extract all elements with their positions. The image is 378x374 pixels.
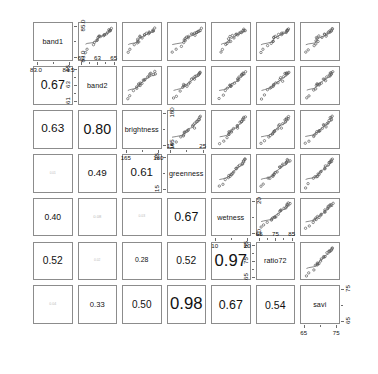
axis-tick: [74, 93, 76, 94]
axis-tick-label: 25: [152, 153, 159, 160]
variable-label: ratio72: [264, 256, 287, 265]
correlation-panel-wetness-brightness: 0.03: [122, 198, 162, 237]
data-point: [259, 51, 261, 53]
scatter-canvas: [212, 111, 250, 148]
axis-tick: [74, 26, 77, 27]
scatter-panel-band1-vs-wetness: [211, 22, 251, 61]
data-point: [218, 142, 220, 144]
data-point: [262, 183, 264, 185]
axis-tick: [74, 101, 77, 102]
axis-tick-label: 85: [241, 241, 248, 248]
axis-tick-label: 165: [121, 154, 131, 161]
diagonal-panel-ratio72: ratio72: [256, 242, 296, 281]
data-point: [129, 48, 131, 50]
data-point: [132, 89, 134, 91]
data-point: [259, 142, 261, 144]
correlation-value: 0.08: [93, 215, 101, 219]
scatter-panel-wetness-vs-savi: [300, 198, 340, 237]
scatterplot-matrix: band10.67band20.630.80brightness0.010.49…: [0, 0, 378, 374]
axis-tick: [163, 129, 165, 130]
data-point: [178, 90, 180, 92]
data-point: [308, 224, 310, 226]
loess-smooth-line: [261, 74, 288, 90]
correlation-panel-savi-band1: 0.04: [33, 285, 73, 324]
data-point: [304, 142, 306, 144]
correlation-value: 0.52: [176, 256, 196, 266]
loess-smooth-line: [306, 31, 333, 45]
correlation-value: 0.04: [49, 303, 56, 307]
axis-tick: [74, 41, 76, 42]
data-point: [263, 94, 265, 96]
scatter-panel-greenness-vs-wetness: [211, 154, 251, 193]
correlation-panel-savi-greenness: 0.98: [167, 285, 207, 324]
axis-tick-label: 180: [167, 108, 174, 118]
scatter-canvas: [301, 155, 339, 192]
data-point: [308, 271, 310, 273]
axis-tick: [97, 62, 98, 65]
axis-tick: [53, 62, 54, 64]
axis-tick: [304, 325, 305, 328]
data-point: [221, 48, 223, 50]
data-point: [261, 48, 263, 50]
data-point: [175, 141, 177, 143]
axis-tick: [163, 189, 166, 190]
scatter-panel-band1-vs-ratio72: [256, 22, 296, 61]
correlation-value: 0.67: [219, 299, 243, 311]
axis-tick: [114, 62, 115, 65]
correlation-panel-ratio72-band2: 0.02: [78, 242, 118, 281]
scatter-canvas: [301, 67, 339, 104]
scatter-canvas: [212, 23, 250, 60]
scatter-canvas: [257, 23, 295, 60]
axis-tick: [81, 62, 82, 65]
axis-tick-label: 85.0: [79, 19, 86, 31]
scatter-panel-band2-vs-ratio72: [256, 66, 296, 105]
data-point: [174, 48, 176, 50]
correlation-value: 0.49: [88, 168, 107, 178]
axis-tick-label: 75: [333, 329, 340, 336]
axis-tick-label: 65: [63, 66, 70, 73]
data-point: [308, 95, 310, 97]
data-point: [280, 127, 282, 129]
scatter-canvas: [212, 155, 250, 192]
data-point: [200, 27, 202, 29]
axis-tick-label: 10: [211, 242, 218, 249]
axis-tick-label: 65: [110, 54, 117, 61]
data-point: [223, 140, 225, 142]
correlation-value: 0.52: [43, 256, 63, 266]
axis-tick: [283, 238, 284, 240]
correlation-value: 0.63: [41, 123, 64, 135]
data-point: [171, 51, 173, 53]
axis-tick: [215, 238, 216, 241]
correlation-panel-savi-brightness: 0.50: [122, 285, 162, 324]
axis-tick: [275, 238, 276, 241]
loess-smooth-line: [305, 120, 332, 137]
data-point: [92, 44, 94, 46]
data-point: [305, 51, 307, 53]
data-point: [304, 227, 306, 229]
scatter-panel-band1-vs-brightness: [122, 22, 162, 61]
axis-tick: [163, 145, 166, 146]
axis-tick-label: 61: [63, 97, 70, 104]
data-point: [180, 45, 182, 47]
scatter-canvas: [301, 199, 339, 236]
correlation-value: 0.50: [132, 300, 151, 310]
scatter-canvas: [212, 67, 250, 104]
scatter-canvas: [301, 23, 339, 60]
axis-tick: [126, 150, 127, 153]
axis-tick: [203, 150, 204, 153]
axis-tick-label: 61: [78, 54, 85, 61]
axis-tick: [105, 62, 106, 64]
data-point: [133, 44, 135, 46]
axis-tick-label: 85: [288, 230, 295, 237]
axis-tick-label: 25: [199, 142, 206, 149]
correlation-value: 0.61: [131, 167, 153, 179]
axis-tick: [231, 238, 232, 240]
axis-tick: [259, 238, 260, 241]
correlation-value: 0.98: [170, 296, 203, 313]
data-point: [222, 94, 224, 96]
data-point: [260, 98, 262, 100]
correlation-value: 0.03: [138, 215, 145, 218]
data-point: [263, 139, 265, 141]
data-point: [127, 97, 129, 99]
scatter-panel-band2-vs-savi: [300, 66, 340, 105]
